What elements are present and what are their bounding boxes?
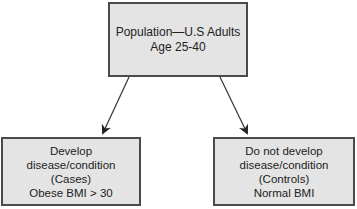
controls-line-3: (Controls) — [259, 172, 309, 186]
arrow-to-cases — [103, 77, 129, 133]
cases-line-4: Obese BMI > 30 — [29, 186, 112, 200]
population-line-1: Population—U.S Adults — [116, 25, 241, 40]
controls-line-4: Normal BMI — [254, 186, 315, 200]
cases-line-3: (Cases) — [51, 172, 91, 186]
controls-box: Do not develop disease/condition (Contro… — [213, 137, 355, 206]
controls-line-2: disease/condition — [240, 158, 329, 172]
cases-line-1: Develop — [50, 144, 92, 158]
population-line-2: Age 25-40 — [150, 40, 205, 55]
cases-box: Develop disease/condition (Cases) Obese … — [1, 137, 141, 206]
cases-line-2: disease/condition — [27, 158, 116, 172]
population-box: Population—U.S Adults Age 25-40 — [108, 2, 248, 77]
controls-line-1: Do not develop — [245, 144, 322, 158]
arrow-to-controls — [220, 77, 247, 133]
